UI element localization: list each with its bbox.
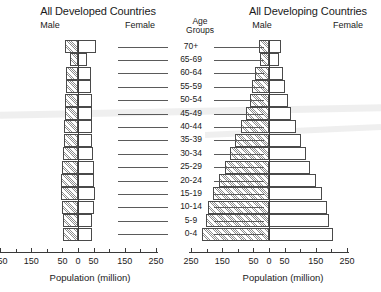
x-tick--200 bbox=[16, 249, 17, 252]
x-tick-label-left-6: 250 bbox=[136, 256, 176, 266]
x-tick-200 bbox=[140, 249, 141, 252]
leader-line-left-35-39 bbox=[118, 140, 168, 141]
leader-line-left-25-29 bbox=[118, 167, 168, 168]
age-group-label-40-44: 40-44 bbox=[170, 122, 212, 131]
left-female-label: Female bbox=[110, 20, 170, 30]
x-tick--100 bbox=[238, 249, 239, 252]
leader-line-right-65-69 bbox=[214, 60, 264, 61]
x-tick--250 bbox=[191, 248, 192, 253]
leader-line-left-5-9 bbox=[118, 221, 168, 222]
x-tick-200 bbox=[331, 249, 332, 252]
right-x-axis: 25015050050150250 bbox=[191, 248, 381, 292]
age-group-label-0-4: 0-4 bbox=[170, 229, 212, 238]
leader-line-left-15-19 bbox=[118, 194, 168, 195]
x-tick--150 bbox=[31, 248, 32, 253]
x-tick-0 bbox=[78, 248, 79, 253]
x-tick-50 bbox=[285, 248, 286, 253]
age-group-label-60-64: 60-64 bbox=[170, 68, 212, 77]
left-panel-title: All Developed Countries bbox=[8, 5, 188, 17]
age-group-label-70+: 70+ bbox=[170, 42, 212, 51]
left-axis-title: Population (million) bbox=[10, 272, 170, 283]
x-tick-150 bbox=[316, 248, 317, 253]
leader-line-right-50-54 bbox=[214, 100, 264, 101]
x-tick--50 bbox=[62, 248, 63, 253]
age-label-column: 70+65-6960-6455-5950-5445-4940-4435-3930… bbox=[0, 36, 381, 248]
age-group-label-55-59: 55-59 bbox=[170, 82, 212, 91]
leader-line-left-55-59 bbox=[118, 87, 168, 88]
leader-line-left-10-14 bbox=[118, 207, 168, 208]
right-panel-title: All Developing Countries bbox=[218, 5, 381, 17]
x-tick-label-right-6: 250 bbox=[327, 256, 367, 266]
right-female-label: Female bbox=[318, 20, 378, 30]
age-group-label-15-19: 15-19 bbox=[170, 189, 212, 198]
leader-line-left-20-24 bbox=[118, 181, 168, 182]
left-male-label: Male bbox=[20, 20, 80, 30]
leader-line-right-30-34 bbox=[214, 154, 264, 155]
x-tick-0 bbox=[269, 248, 270, 253]
x-tick-50 bbox=[94, 248, 95, 253]
x-tick-250 bbox=[156, 248, 157, 253]
leader-line-left-30-34 bbox=[118, 154, 168, 155]
leader-line-right-10-14 bbox=[214, 207, 264, 208]
left-x-axis: 25015050050150250 bbox=[0, 248, 190, 292]
x-tick--100 bbox=[47, 249, 48, 252]
x-tick--200 bbox=[207, 249, 208, 252]
leader-line-right-45-49 bbox=[214, 114, 264, 115]
leader-line-left-65-69 bbox=[118, 60, 168, 61]
leader-line-right-35-39 bbox=[214, 140, 264, 141]
age-group-label-10-14: 10-14 bbox=[170, 202, 212, 211]
right-male-label: Male bbox=[232, 20, 292, 30]
leader-line-right-60-64 bbox=[214, 73, 264, 74]
age-group-label-45-49: 45-49 bbox=[170, 109, 212, 118]
leader-line-left-45-49 bbox=[118, 114, 168, 115]
age-groups-header-line2: Groups bbox=[175, 26, 225, 36]
age-group-label-30-34: 30-34 bbox=[170, 149, 212, 158]
x-tick-250 bbox=[347, 248, 348, 253]
age-group-label-35-39: 35-39 bbox=[170, 135, 212, 144]
leader-line-right-20-24 bbox=[214, 181, 264, 182]
right-axis-title: Population (million) bbox=[203, 272, 363, 283]
leader-line-left-60-64 bbox=[118, 73, 168, 74]
age-group-label-25-29: 25-29 bbox=[170, 162, 212, 171]
leader-line-left-0-4 bbox=[118, 234, 168, 235]
leader-line-left-70+ bbox=[118, 47, 168, 48]
leader-line-right-25-29 bbox=[214, 167, 264, 168]
leader-line-right-15-19 bbox=[214, 194, 264, 195]
age-group-label-5-9: 5-9 bbox=[170, 216, 212, 225]
x-tick-100 bbox=[109, 249, 110, 252]
x-axis-line bbox=[0, 252, 158, 253]
leader-line-right-0-4 bbox=[214, 234, 264, 235]
leader-line-right-55-59 bbox=[214, 87, 264, 88]
age-group-label-20-24: 20-24 bbox=[170, 176, 212, 185]
x-tick--150 bbox=[222, 248, 223, 253]
leader-line-right-5-9 bbox=[214, 221, 264, 222]
leader-line-right-70+ bbox=[214, 47, 264, 48]
leader-line-left-50-54 bbox=[118, 100, 168, 101]
population-pyramid-figure: All Developed Countries Male Female Age … bbox=[0, 0, 381, 292]
age-group-label-65-69: 65-69 bbox=[170, 55, 212, 64]
x-tick--50 bbox=[253, 248, 254, 253]
x-tick--250 bbox=[0, 248, 1, 253]
leader-line-right-40-44 bbox=[214, 127, 264, 128]
x-tick-150 bbox=[125, 248, 126, 253]
x-tick-100 bbox=[300, 249, 301, 252]
leader-line-left-40-44 bbox=[118, 127, 168, 128]
age-group-label-50-54: 50-54 bbox=[170, 95, 212, 104]
